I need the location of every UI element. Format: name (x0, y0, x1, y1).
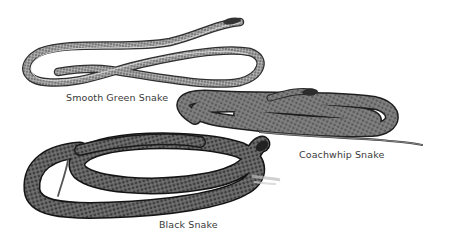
coachwhip-snake-label: Coachwhip Snake (299, 149, 384, 160)
black-snake-label: Black Snake (159, 219, 218, 230)
black-snake (32, 138, 280, 210)
smooth-green-snake (26, 17, 260, 84)
snake-illustration: Smooth Green Snake Coachwhip Snake Black… (0, 0, 449, 247)
snake-drawings (0, 0, 449, 247)
smooth-green-snake-label: Smooth Green Snake (66, 92, 168, 103)
